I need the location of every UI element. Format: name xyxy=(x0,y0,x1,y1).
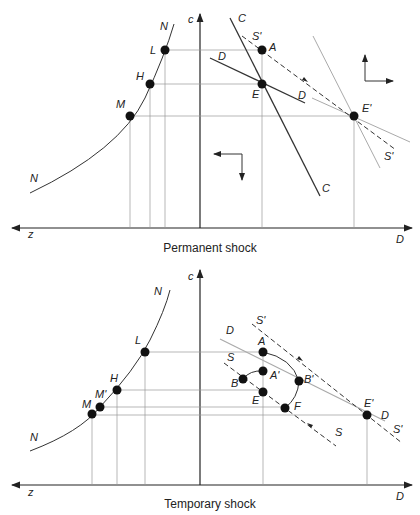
label-h: H xyxy=(110,372,118,384)
label-h: H xyxy=(136,70,144,82)
label-m-prime: M' xyxy=(95,388,107,400)
caption-temporary-shock: Temporary shock xyxy=(164,497,256,511)
point-e xyxy=(259,388,268,397)
label-s-prime-top: S' xyxy=(256,314,266,326)
label-c-top: C xyxy=(238,12,246,24)
n-label-bottom: N xyxy=(30,431,38,443)
point-a xyxy=(258,46,267,55)
projection-lines xyxy=(92,352,367,485)
point-a xyxy=(259,348,268,357)
point-e-prime xyxy=(363,411,372,420)
permanent-shock-panel: c z D N N L H M A E E' C C D D S' S' Per… xyxy=(12,12,412,255)
point-b xyxy=(239,375,248,384)
point-l xyxy=(161,46,170,55)
point-b-prime xyxy=(295,377,304,386)
label-s-prime-bottom: S' xyxy=(393,423,403,435)
label-d-right: D xyxy=(298,89,306,101)
label-c-bottom: C xyxy=(322,182,330,194)
point-a-prime xyxy=(259,367,268,376)
point-m xyxy=(88,410,97,419)
projection-lines xyxy=(130,50,354,228)
label-l: L xyxy=(135,334,141,346)
label-s-right: S xyxy=(335,426,343,438)
caption-permanent-shock: Permanent shock xyxy=(163,241,257,255)
n-label-bottom: N xyxy=(30,172,38,184)
label-a: A xyxy=(268,41,276,53)
label-s-prime-bottom: S' xyxy=(384,150,394,162)
point-e-prime xyxy=(350,112,359,121)
label-a-prime: A' xyxy=(269,369,280,381)
label-e-prime: E' xyxy=(362,102,372,114)
label-f: F xyxy=(294,400,302,412)
label-a: A xyxy=(257,335,265,347)
point-h xyxy=(113,386,122,395)
label-d-left: D xyxy=(218,50,226,62)
temporary-shock-panel: c z D N N L H M' M A A' B B' E F E' D D … xyxy=(12,270,412,511)
d-axis-label: D xyxy=(396,490,404,502)
label-d-right: D xyxy=(381,409,389,421)
c-axis-label: c xyxy=(188,13,194,25)
z-axis-label: z xyxy=(27,486,34,498)
n-label-top: N xyxy=(154,285,162,297)
c-axis-label: c xyxy=(188,270,194,282)
point-h xyxy=(146,80,155,89)
n-curve xyxy=(30,290,170,451)
s-prime-line xyxy=(252,324,402,443)
diagram-canvas: c z D N N L H M A E E' C C D D S' S' Per… xyxy=(0,0,420,515)
label-b-prime: B' xyxy=(304,373,314,385)
label-s-prime-top: S' xyxy=(252,30,262,42)
d-prime-line xyxy=(312,98,410,142)
label-m: M xyxy=(82,398,92,410)
label-e: E xyxy=(252,88,260,100)
point-f xyxy=(281,404,290,413)
label-d-left: D xyxy=(226,324,234,336)
label-b: B xyxy=(231,377,238,389)
label-s-left: S xyxy=(227,351,235,363)
z-axis-label: z xyxy=(27,228,34,240)
point-m xyxy=(126,112,135,121)
point-m-prime xyxy=(96,403,105,412)
label-m: M xyxy=(116,98,126,110)
label-e-prime: E' xyxy=(364,397,374,409)
label-l: L xyxy=(150,44,156,56)
d-axis-label: D xyxy=(396,233,404,245)
point-l xyxy=(141,348,150,357)
label-e: E xyxy=(252,394,260,406)
n-label-top: N xyxy=(160,20,168,32)
